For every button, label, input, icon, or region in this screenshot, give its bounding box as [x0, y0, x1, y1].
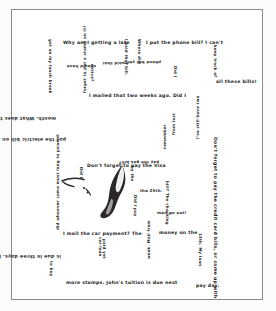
spiral-text-segment: from last: [172, 113, 176, 135]
spiral-text-segment: Why am I getting a late: [63, 41, 130, 46]
spiral-text-segment: more stamps. John's tuition is due next: [66, 281, 178, 286]
spiral-text-segment: Did I: [173, 66, 177, 77]
spiral-text-segment: 15th. My loan: [198, 233, 202, 266]
spiral-text-segment: get on my lunch break: [48, 39, 52, 94]
spiral-text-segment: I've still have two: [196, 95, 200, 139]
spiral-text-segment: month. What does the post office charge?…: [0, 115, 56, 120]
spiral-text-segment: money on the: [159, 231, 198, 236]
spiral-text-segment: by the: [130, 166, 134, 181]
spiral-text-segment: mail go out!: [157, 211, 187, 215]
spiral-text-segment: forget to put a stamp on it?: [83, 25, 87, 93]
spiral-text-segment: bill? The checking: [165, 181, 169, 225]
spiral-text-segment: paid yet: [102, 239, 106, 259]
spiral-text-segment: I mail the car payment? The: [63, 232, 142, 237]
spiral-text-segment: remember: [163, 124, 167, 149]
spiral-text-segment: keep track of: [213, 45, 217, 77]
spiral-text-segment: Don't forget to pay the credit card bill…: [212, 137, 217, 298]
spiral-text-segment: all these bills!: [216, 80, 257, 85]
spiral-text-segment: Did I: [79, 167, 83, 178]
spiral-text-segment: I paid that bill.: [124, 39, 128, 76]
spiral-text-segment: did whoever come must long to pawn it: [56, 134, 60, 230]
spiral-text-segment: I mailed that two weeks ago. Did I: [89, 94, 186, 99]
spiral-text-segment: Did I pay: [133, 195, 137, 217]
spiral-text-segment: pay the gas bill?: [119, 160, 159, 164]
spiral-text-segment: to buy: [49, 261, 53, 276]
artwork-page: Why am I getting a lateI paid that bill.…: [0, 0, 276, 311]
spiral-text-segment: week. Mail from: [147, 220, 151, 259]
spiral-text-segment: is due in three days. Dad, I forgot: [0, 253, 61, 258]
spiral-text-segment: phone bill yet?: [125, 60, 161, 64]
spiral-text-segment: I put the phone bill? I can't: [146, 41, 223, 46]
spiral-text-segment: pay day.: [196, 284, 219, 289]
spiral-text-segment: the 25th.: [140, 189, 162, 193]
spiral-text-field: Why am I getting a lateI paid that bill.…: [11, 9, 263, 300]
